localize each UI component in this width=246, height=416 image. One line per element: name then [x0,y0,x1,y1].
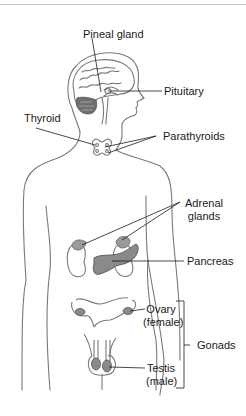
label-pancreas: Pancreas [187,255,233,268]
label-adrenal-glands: Adrenal glands [182,197,226,223]
right-testis [103,360,112,372]
left-ovary [75,309,85,316]
adrenal-leader-2 [122,202,180,240]
label-pineal-gland: Pineal gland [83,28,144,41]
label-thyroid: Thyroid [24,112,61,125]
cerebellum [76,97,97,114]
label-parathyroids: Parathyroids [163,130,225,143]
adrenal-leader-1 [82,202,180,245]
label-ovary: Ovary (female) [143,303,179,329]
label-gonads: Gonads [197,339,236,352]
thyroid-leader [36,128,95,145]
pineal-leader [92,38,101,92]
body-outline [22,132,80,390]
right-adrenal-gland [116,236,130,248]
label-testis: Testis (male) [146,362,176,388]
label-pituitary: Pituitary [164,85,204,98]
left-testis [92,358,101,370]
